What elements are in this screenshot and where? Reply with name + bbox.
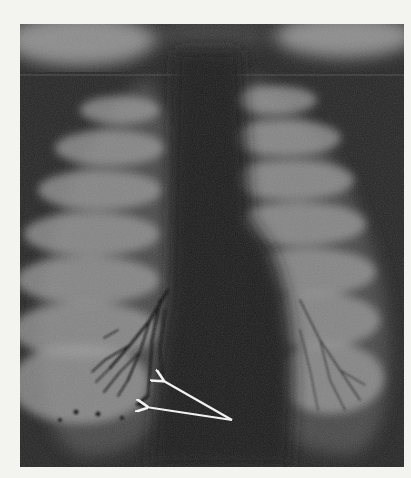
chest-xray-image	[20, 24, 404, 467]
xray-frame	[20, 24, 404, 467]
film-grain	[20, 24, 404, 467]
